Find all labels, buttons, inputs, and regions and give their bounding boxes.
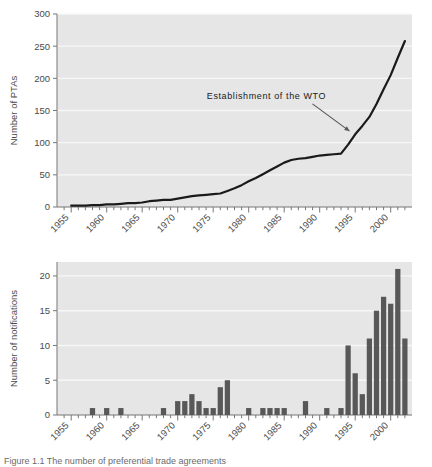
x-axis-tick-label: 1975 bbox=[190, 420, 213, 443]
bar bbox=[353, 373, 358, 415]
x-axis-tick-label: 1965 bbox=[119, 420, 142, 443]
bar bbox=[345, 345, 350, 415]
x-axis-tick-label: 1960 bbox=[83, 212, 106, 235]
x-axis-tick-label: 2000 bbox=[367, 212, 390, 235]
x-axis-tick-label: 1985 bbox=[261, 212, 284, 235]
y-axis-tick-label: 250 bbox=[34, 41, 50, 52]
bar bbox=[104, 408, 109, 415]
y-axis-tick-label: 15 bbox=[39, 305, 50, 316]
x-axis-tick-label: 1970 bbox=[154, 212, 177, 235]
bar bbox=[161, 408, 166, 415]
bar bbox=[374, 311, 379, 415]
bar bbox=[203, 408, 208, 415]
x-axis-tick-label: 1975 bbox=[190, 212, 213, 235]
y-axis-tick-label: 150 bbox=[34, 105, 50, 116]
y-axis-title: Number of PTAs bbox=[8, 75, 19, 145]
x-axis-tick-label: 1960 bbox=[83, 420, 106, 443]
x-axis-tick-label: 1955 bbox=[48, 420, 71, 443]
wto-annotation-label: Establishment of the WTO bbox=[207, 91, 326, 101]
bar bbox=[402, 339, 407, 416]
y-axis-tick-label: 50 bbox=[39, 169, 50, 180]
x-axis-tick-label: 1955 bbox=[48, 212, 71, 235]
y-axis-tick-label: 100 bbox=[34, 137, 50, 148]
bar bbox=[218, 387, 223, 415]
x-axis-tick-label: 1970 bbox=[154, 420, 177, 443]
bar bbox=[360, 394, 365, 415]
x-axis-tick-label: 1980 bbox=[225, 212, 248, 235]
y-axis-tick-label: 5 bbox=[45, 375, 50, 386]
bar bbox=[90, 408, 95, 415]
x-axis-tick-label: 1990 bbox=[296, 420, 319, 443]
bar bbox=[381, 297, 386, 415]
x-axis-tick-label: 1980 bbox=[225, 420, 248, 443]
bar-chart-panel: 0510152019551960196519701975198019851990… bbox=[8, 262, 412, 442]
figure-caption: Figure 1.1 The number of preferential tr… bbox=[4, 456, 428, 467]
y-axis-tick-label: 10 bbox=[39, 340, 50, 351]
x-axis-tick-label: 1990 bbox=[296, 212, 319, 235]
x-axis-tick-label: 1965 bbox=[119, 212, 142, 235]
bar bbox=[211, 408, 216, 415]
bar bbox=[324, 408, 329, 415]
bar bbox=[260, 408, 265, 415]
x-axis-tick-label: 1995 bbox=[332, 212, 355, 235]
x-axis-tick-label: 1995 bbox=[332, 420, 355, 443]
bar bbox=[225, 380, 230, 415]
y-axis-tick-label: 300 bbox=[34, 8, 50, 19]
plot-background bbox=[57, 262, 412, 415]
bar bbox=[303, 401, 308, 415]
bar bbox=[274, 408, 279, 415]
bar bbox=[246, 408, 251, 415]
bar bbox=[175, 401, 180, 415]
bar bbox=[338, 408, 343, 415]
bar bbox=[182, 401, 187, 415]
bar bbox=[388, 304, 393, 415]
bar bbox=[367, 339, 372, 416]
y-axis-title: Number of notifications bbox=[8, 290, 19, 387]
y-axis-tick-label: 0 bbox=[45, 409, 50, 420]
bar bbox=[118, 408, 123, 415]
bar bbox=[395, 269, 400, 415]
line-chart-panel: 0501001502002503001955196019651970197519… bbox=[8, 8, 412, 234]
bar bbox=[267, 408, 272, 415]
y-axis-tick-label: 200 bbox=[34, 73, 50, 84]
bar bbox=[189, 394, 194, 415]
x-axis-tick-label: 1985 bbox=[261, 420, 284, 443]
bar bbox=[282, 408, 287, 415]
y-axis-tick-label: 20 bbox=[39, 270, 50, 281]
x-axis-tick-label: 2000 bbox=[367, 420, 390, 443]
bar bbox=[196, 401, 201, 415]
y-axis-tick-label: 0 bbox=[45, 201, 50, 212]
